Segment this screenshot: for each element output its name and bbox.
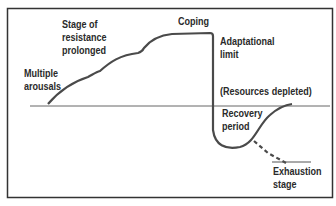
label-line: limit	[220, 48, 275, 61]
label-line: Adaptational	[220, 35, 275, 48]
label-line: Exhaustion	[273, 165, 322, 178]
label-coping: Coping	[178, 15, 209, 28]
label-stage-of-resistance: Stage of resistance prolonged	[62, 18, 107, 57]
label-line: resistance	[62, 31, 107, 44]
label-exhaustion-stage: Exhaustion stage	[273, 165, 322, 191]
label-multiple-arousals: Multiple arousals	[24, 67, 61, 93]
label-line: period	[222, 120, 263, 133]
label-line: stage	[273, 178, 322, 191]
label-adaptational-limit: Adaptational limit	[220, 35, 275, 61]
label-line: Multiple	[24, 67, 61, 80]
label-recovery-period: Recovery period	[222, 107, 263, 133]
label-line: Stage of	[62, 18, 107, 31]
label-line: Recovery	[222, 107, 263, 120]
label-line: arousals	[24, 80, 61, 93]
label-line: prolonged	[62, 44, 107, 57]
exhaustion-dashed-line	[254, 141, 286, 163]
label-resources-depleted: (Resources depleted)	[220, 85, 312, 98]
